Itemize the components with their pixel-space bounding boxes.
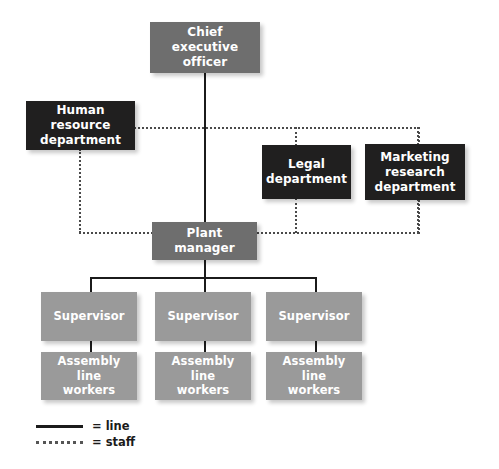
node-legal-label-line1: Legal — [266, 157, 347, 172]
node-workers-2-label-line1: Assembly line — [159, 354, 247, 383]
node-human-resource-department[interactable]: Human resource department — [26, 101, 135, 150]
connector-staff-lower-horizontal — [257, 232, 419, 234]
connector-staff-legal-bottom-stub — [295, 198, 297, 233]
legend-dotted-line-icon — [36, 441, 83, 444]
legend: = line = staff — [36, 418, 135, 450]
node-assembly-line-workers-2[interactable]: Assembly line workers — [155, 352, 251, 400]
connector-ceo-to-plant-manager — [204, 72, 206, 224]
node-workers-2-label-line2: workers — [159, 383, 247, 397]
connector-staff-upper-horizontal — [134, 127, 420, 129]
connector-bus-to-supervisor-2 — [204, 277, 206, 293]
node-assembly-line-workers-1[interactable]: Assembly line workers — [41, 352, 137, 400]
legend-row-line: = line — [36, 418, 135, 434]
connector-staff-marketing-top-stub — [417, 127, 419, 145]
legend-staff-label: = staff — [92, 435, 135, 449]
node-marketing-label-line2: research — [375, 165, 456, 180]
connector-staff-hr-drop — [79, 149, 81, 233]
connector-staff-marketing-bottom-stub — [417, 199, 419, 233]
node-supervisor-3-label: Supervisor — [278, 309, 349, 323]
connector-staff-hr-to-plant-manager — [79, 232, 153, 234]
node-supervisor-2[interactable]: Supervisor — [155, 292, 251, 341]
node-marketing-research-department[interactable]: Marketing research department — [365, 144, 465, 200]
node-supervisor-1-label: Supervisor — [53, 309, 124, 323]
node-assembly-line-workers-3[interactable]: Assembly line workers — [266, 352, 362, 400]
connector-plant-manager-drop — [204, 259, 206, 278]
node-supervisor-3[interactable]: Supervisor — [266, 292, 362, 341]
connector-bus-to-supervisor-1 — [90, 277, 92, 293]
legend-row-staff: = staff — [36, 434, 135, 450]
node-chief-executive-officer[interactable]: Chief executive officer — [150, 22, 260, 73]
node-plant-manager[interactable]: Plant manager — [152, 222, 257, 260]
org-chart-diagram: Chief executive officer Human resource d… — [0, 0, 499, 469]
node-workers-3-label-line1: Assembly line — [270, 354, 358, 383]
connector-staff-legal-top-stub — [295, 127, 297, 146]
node-hr-label-line2: department — [30, 133, 131, 148]
node-plant-manager-label: Plant manager — [156, 226, 253, 256]
node-workers-1-label-line2: workers — [45, 383, 133, 397]
node-workers-3-label-line2: workers — [270, 383, 358, 397]
node-marketing-label-line1: Marketing — [375, 150, 456, 165]
node-supervisor-1[interactable]: Supervisor — [41, 292, 137, 341]
node-ceo-label-line2: officer — [154, 55, 256, 70]
node-marketing-label-line3: department — [375, 180, 456, 195]
legend-solid-line-icon — [36, 425, 83, 428]
legend-line-label: = line — [92, 419, 130, 433]
node-legal-department[interactable]: Legal department — [262, 145, 351, 199]
node-hr-label-line1: Human resource — [30, 103, 131, 133]
node-supervisor-2-label: Supervisor — [167, 309, 238, 323]
node-workers-1-label-line1: Assembly line — [45, 354, 133, 383]
node-legal-label-line2: department — [266, 172, 347, 187]
node-ceo-label-line1: Chief executive — [154, 25, 256, 55]
connector-bus-to-supervisor-3 — [315, 277, 317, 293]
